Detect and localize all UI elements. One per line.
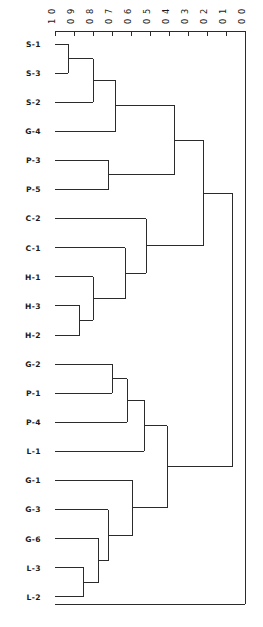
merge-node (55, 160, 108, 189)
merge-node (55, 539, 99, 583)
merge-node (55, 481, 133, 536)
leaf-label: P-4 (26, 418, 41, 427)
merge-node (55, 510, 108, 561)
merge-node (55, 306, 80, 335)
dendrogram-figure: 1 00 90 80 70 60 50 40 30 20 10 0S-1S-3S… (0, 0, 263, 627)
merge-node (55, 248, 125, 299)
merge-node (55, 379, 127, 423)
leaf-label: H-1 (25, 273, 41, 282)
leaf-label: S-1 (26, 40, 41, 49)
leaf-label: H-2 (25, 331, 41, 340)
leaf-label: P-1 (26, 389, 41, 398)
leaf-label: P-5 (26, 185, 41, 194)
merge-node (55, 568, 84, 597)
leaf-label: G-3 (25, 505, 41, 514)
merge-node (55, 400, 144, 451)
leaf-label: G-6 (25, 535, 41, 544)
leaf-label: P-3 (26, 156, 41, 165)
axis-tick-label: 0 4 (161, 8, 171, 24)
merge-node (55, 277, 93, 321)
axis-tick-label: 0 7 (104, 8, 114, 24)
merge-node (133, 426, 167, 508)
axis-tick-label: 1 0 (47, 8, 57, 24)
leaf-label: L-3 (27, 564, 41, 573)
axis-tick-label: 0 2 (199, 8, 209, 24)
leaf-label: G-1 (25, 476, 41, 485)
axis-tick-label: 0 3 (180, 8, 190, 24)
axis-tick-label: 0 6 (123, 8, 133, 24)
dendrogram-plot: 1 00 90 80 70 60 50 40 30 20 10 0S-1S-3S… (0, 0, 263, 627)
leaf-label: C-2 (26, 214, 41, 223)
axis-tick-label: 0 5 (142, 8, 152, 24)
leaf-label: H-3 (25, 302, 41, 311)
axis-tick-label: 0 1 (218, 8, 228, 24)
merge-node (167, 193, 233, 467)
merge-node (55, 44, 68, 73)
leaf-label: L-2 (27, 593, 41, 602)
leaf-label: G-2 (25, 360, 41, 369)
leaf-label: C-1 (26, 244, 41, 253)
merge-node (55, 59, 93, 103)
merge-node (55, 80, 116, 131)
axis-tick-label: 0 0 (237, 8, 247, 24)
merge-node (108, 106, 175, 175)
merge-node (55, 219, 146, 274)
leaf-label: S-2 (26, 98, 41, 107)
axis-tick-label: 0 9 (66, 8, 76, 24)
axis-tick-label: 0 8 (85, 8, 95, 24)
leaf-label: S-3 (26, 69, 41, 78)
leaf-label: G-4 (25, 127, 41, 136)
merge-node (55, 364, 112, 393)
leaf-label: L-1 (27, 447, 41, 456)
